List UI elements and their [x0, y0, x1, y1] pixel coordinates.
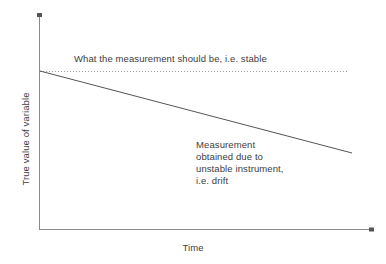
- x-axis-label: Time: [0, 242, 386, 254]
- drift-diagram-figure: What the measurement should be, i.e. sta…: [0, 0, 386, 264]
- diagram-canvas: [0, 0, 386, 264]
- drift-annotation-label: Measurement obtained due to unstable ins…: [196, 139, 284, 187]
- y-axis-label: True value of variable: [20, 64, 32, 214]
- x-axis-arrow-icon: [369, 228, 374, 232]
- stable-annotation-label: What the measurement should be, i.e. sta…: [74, 53, 267, 65]
- y-axis-arrow-icon: [37, 13, 42, 17]
